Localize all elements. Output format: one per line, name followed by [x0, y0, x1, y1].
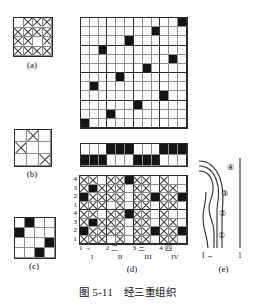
- weave-cell: [81, 18, 90, 27]
- weave-cell: [15, 228, 25, 238]
- weave-cell: [125, 119, 134, 128]
- weave-cell: [25, 228, 35, 238]
- weave-cell: [89, 219, 98, 228]
- weave-cell: [107, 155, 116, 166]
- weave-cell: [116, 82, 125, 91]
- weave-cell: [107, 176, 116, 185]
- subfigure-e-base-label-right: 1: [238, 252, 242, 260]
- weave-cell: [98, 202, 107, 211]
- weave-cell: [98, 176, 107, 185]
- weave-cell: [125, 210, 134, 219]
- weave-cell: [90, 110, 99, 119]
- weave-cell: [24, 37, 34, 47]
- weave-cell: [107, 36, 116, 45]
- weave-cell: [178, 202, 187, 211]
- weave-cell: [169, 176, 178, 185]
- weave-cell: [33, 47, 43, 57]
- weave-cell: [178, 144, 187, 155]
- weave-cell: [151, 193, 160, 202]
- subfigure-d-row-label: 3: [74, 184, 78, 192]
- weave-cell: [15, 154, 27, 166]
- thread-label-3: ③: [221, 190, 228, 198]
- weave-cell: [169, 36, 178, 45]
- weave-cell: [116, 185, 125, 194]
- weave-cell: [178, 193, 187, 202]
- weave-cell: [81, 155, 90, 166]
- weave-cell: [81, 36, 90, 45]
- weave-cell: [35, 238, 45, 248]
- weave-cell: [14, 28, 24, 38]
- weave-cell: [178, 119, 187, 128]
- weave-cell: [27, 142, 39, 154]
- weave-cell: [178, 210, 187, 219]
- weave-cell: [169, 55, 178, 64]
- subfigure-b-weave-grid: [14, 129, 52, 167]
- weave-cell: [134, 144, 143, 155]
- weave-cell: [143, 110, 152, 119]
- weave-cell: [89, 210, 98, 219]
- weave-cell: [116, 236, 125, 245]
- weave-cell: [143, 18, 152, 27]
- weave-cell: [27, 154, 39, 166]
- weave-cell: [107, 119, 116, 128]
- subfigure-b-caption: (b): [8, 169, 56, 179]
- weave-cell: [90, 144, 99, 155]
- subfigure-d-row-labels: 43214321: [68, 175, 77, 243]
- weave-cell: [116, 210, 125, 219]
- weave-cell: [169, 119, 178, 128]
- weave-cell: [134, 185, 143, 194]
- weave-cell: [35, 228, 45, 238]
- weave-cell: [107, 110, 116, 119]
- weave-cell: [152, 101, 161, 110]
- weave-cell: [178, 101, 187, 110]
- subfigure-e-base-label-left: I →: [202, 252, 214, 260]
- weave-cell: [125, 176, 134, 185]
- weave-cell: [125, 55, 134, 64]
- weave-cell: [116, 18, 125, 27]
- weave-cell: [143, 46, 152, 55]
- subfigure-e-yarn-diagram: ④ ③ ② ①: [196, 152, 251, 257]
- weave-cell: [107, 193, 116, 202]
- weave-cell: [178, 64, 187, 73]
- weave-cell: [125, 219, 134, 228]
- subfigure-d-column-label-top: 3 三: [133, 245, 145, 252]
- weave-cell: [160, 82, 169, 91]
- thread-label-2: ②: [219, 210, 226, 218]
- weave-cell: [99, 27, 108, 36]
- weave-cell: [178, 36, 187, 45]
- subfigure-a-caption: (a): [8, 60, 56, 70]
- weave-cell: [80, 210, 89, 219]
- weave-cell: [143, 55, 152, 64]
- weave-cell: [169, 101, 178, 110]
- weft-sequence-strip: [80, 143, 188, 167]
- weave-cell: [89, 202, 98, 211]
- weave-cell: [160, 64, 169, 73]
- weave-cell: [99, 73, 108, 82]
- weave-cell: [160, 202, 169, 211]
- weave-cell: [90, 91, 99, 100]
- weave-cell: [125, 110, 134, 119]
- weave-cell: [15, 248, 25, 258]
- weave-cell: [116, 144, 125, 155]
- weave-cell: [81, 91, 90, 100]
- weave-cell: [99, 64, 108, 73]
- weave-cell: [178, 110, 187, 119]
- weave-cell: [99, 101, 108, 110]
- weave-cell: [160, 55, 169, 64]
- weave-cell: [14, 18, 24, 28]
- weave-cell: [116, 119, 125, 128]
- weave-cell: [152, 82, 161, 91]
- weave-cell: [80, 185, 89, 194]
- weave-cell: [160, 73, 169, 82]
- weave-cell: [116, 91, 125, 100]
- weave-cell: [116, 227, 125, 236]
- weave-cell: [160, 36, 169, 45]
- weave-cell: [178, 219, 187, 228]
- weave-cell: [160, 110, 169, 119]
- subfigure-d-column-label-bottom: III: [145, 254, 152, 261]
- weave-cell: [151, 210, 160, 219]
- subfigure-c-caption: (c): [8, 261, 60, 271]
- subfigure-a-weave-grid: [13, 17, 53, 57]
- weave-cell: [152, 73, 161, 82]
- weave-cell: [134, 236, 143, 245]
